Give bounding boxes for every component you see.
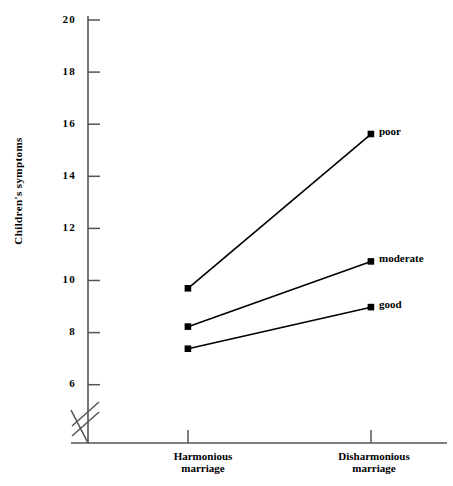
series-line-poor: [188, 134, 371, 288]
y-tick-label-16: 16: [46, 117, 76, 129]
x-tick-label-harmonious-line1: Harmonious: [148, 450, 258, 462]
series-label-poor: poor: [379, 125, 401, 137]
line-chart: Children's symptoms 20 18 16 14 12 10 8 …: [0, 0, 453, 486]
y-tick-label-10: 10: [46, 273, 76, 285]
x-tick-label-harmonious: Harmonious marriage: [148, 450, 258, 475]
x-tick-label-disharmonious-line2: marriage: [316, 462, 432, 474]
y-axis-title: Children's symptoms: [12, 126, 24, 256]
x-tick-label-harmonious-line2: marriage: [148, 462, 258, 474]
y-tick-label-14: 14: [46, 169, 76, 181]
x-tick-label-disharmonious-line1: Disharmonious: [316, 450, 432, 462]
x-ticks: [188, 430, 371, 443]
y-tick-label-6: 6: [46, 377, 76, 389]
y-tick-label-12: 12: [46, 221, 76, 233]
y-tick-label-18: 18: [46, 65, 76, 77]
y-tick-label-8: 8: [46, 325, 76, 337]
series-line-moderate: [188, 262, 371, 327]
series-line-good: [188, 307, 371, 349]
y-major-ticks: [88, 20, 100, 385]
y-tick-label-20: 20: [46, 13, 76, 25]
x-tick-label-disharmonious: Disharmonious marriage: [316, 450, 432, 475]
series-label-moderate: moderate: [379, 252, 424, 264]
series-label-good: good: [379, 298, 402, 310]
